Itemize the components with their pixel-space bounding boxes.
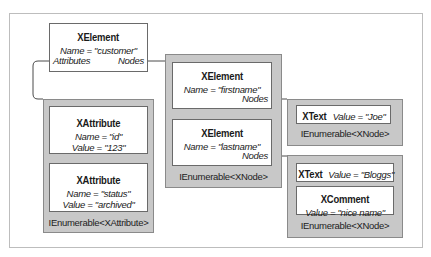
attributes-collection-label: IEnumerable<XAttribute> (44, 217, 153, 228)
xcomment-type: XComment (321, 193, 369, 205)
xtext-joe-box: XText Value = "Joe" (296, 105, 391, 124)
xelement-firstname-box: XElement Name = "firstname" Nodes (172, 62, 272, 109)
xelement-lastname-box: XElement Name = "lastname" Nodes (172, 119, 272, 166)
xattribute-name: Name = "id" (50, 131, 147, 142)
attributes-port: Attributes (53, 55, 90, 66)
nodes-port: Nodes (118, 55, 144, 66)
xtext-bloggs-box: XText Value = "Bloggs" (296, 163, 394, 182)
firstname-nodes-label: IEnumerable<XNode> (288, 128, 402, 139)
lastname-nodes-port: Nodes (242, 150, 268, 161)
firstname-nodes-port: Nodes (242, 93, 268, 104)
xtext-type: XText (303, 110, 327, 122)
xelement-type: XElement (201, 127, 243, 139)
xtext-value: Value = "Bloggs" (328, 169, 394, 180)
xattribute-value: Value = "123" (50, 142, 147, 153)
xattribute-type: XAttribute (77, 174, 121, 186)
xattribute-status-box: XAttribute Name = "status" Value = "arch… (49, 163, 148, 212)
xattribute-name: Name = "status" (50, 188, 147, 199)
xattribute-id-box: XAttribute Name = "id" Value = "123" (49, 106, 148, 154)
xattribute-type: XAttribute (77, 117, 121, 129)
xattribute-value: Value = "archived" (50, 199, 147, 210)
xcomment-value: Value = "nice name" (297, 207, 393, 218)
xcomment-box: XComment Value = "nice name" (296, 186, 394, 215)
xtext-type: XText (298, 168, 322, 180)
nodes-collection-label: IEnumerable<XNode> (166, 171, 281, 182)
xelement-type: XElement (201, 70, 243, 82)
lastname-nodes-label: IEnumerable<XNode> (288, 220, 402, 231)
xtext-value: Value = "Joe" (333, 111, 386, 122)
root-type: XElement (78, 31, 120, 43)
root-xelement-box: XElement Name = "customer" Attributes No… (49, 23, 148, 72)
